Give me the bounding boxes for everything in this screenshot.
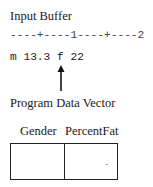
pdv-table: .	[10, 143, 118, 180]
input-buffer-content: m 13.3 f 22	[10, 51, 84, 63]
program-data-vector-title: Program Data Vector	[10, 96, 115, 110]
pdv-cell-percentfat: .	[65, 144, 117, 179]
column-header-gender: Gender	[20, 124, 57, 138]
column-ruler: ----+----1----+----2	[10, 29, 144, 41]
percentfat-missing-value: .	[106, 157, 109, 167]
pdv-cell-gender	[11, 144, 65, 179]
input-buffer-title: Input Buffer	[10, 9, 72, 23]
column-header-percentfat: PercentFat	[65, 124, 118, 138]
up-arrow-icon	[56, 65, 66, 91]
